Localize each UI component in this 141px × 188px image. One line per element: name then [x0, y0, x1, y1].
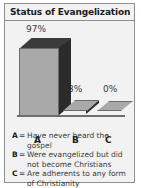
bar-value-label-c: 0%	[103, 84, 117, 94]
legend-description-b: Were evangelized but did not become Chri…	[27, 150, 123, 169]
legend-key-b: B	[12, 150, 18, 160]
legend-item-b: B = Were evangelized but did not become …	[12, 150, 132, 169]
legend-key-a: A	[12, 131, 18, 141]
legend-separator-c: =	[19, 169, 25, 179]
x-axis-baseline	[17, 115, 125, 117]
chart-figure: Status of Evangelization 97% 3% 0% A B C…	[4, 3, 135, 183]
bar-a-front-face	[19, 48, 59, 116]
legend-separator-a: =	[19, 131, 25, 141]
page-title: Status of Evangelization	[10, 7, 130, 17]
legend-item-c: C = Are adherents to any form of Christi…	[12, 169, 132, 187]
chart-plot-area: 97% 3% 0% A B C	[5, 21, 134, 125]
bar-value-label-a: 97%	[26, 24, 46, 34]
bar-b	[63, 100, 99, 116]
bar-c-top-face	[97, 101, 133, 111]
legend-description-c: Are adherents to any form of Christianit…	[27, 169, 126, 187]
legend-item-a: A = Have never heard the gospel	[12, 131, 132, 150]
legend-description-a: Have never heard the gospel	[27, 131, 109, 150]
legend-key-c: C	[12, 169, 18, 179]
legend-separator-b: =	[19, 150, 25, 160]
chart-title-bar: Status of Evangelization	[5, 4, 134, 21]
chart-legend: A = Have never heard the gospel B = Were…	[12, 131, 132, 187]
bar-c	[97, 101, 133, 116]
